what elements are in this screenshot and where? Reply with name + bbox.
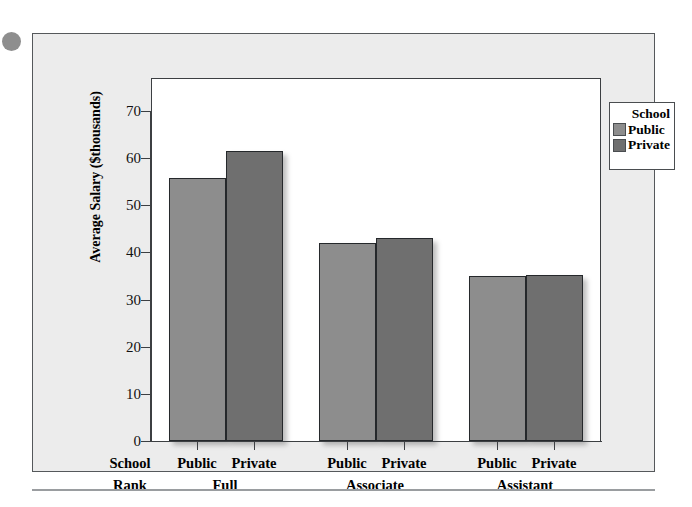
y-tick-mark-50 bbox=[141, 205, 150, 206]
legend: School Public Private bbox=[609, 102, 675, 170]
x-axis-line bbox=[150, 441, 602, 442]
y-tick-20: 20 bbox=[69, 347, 141, 348]
x-tick-full-private bbox=[254, 442, 255, 450]
x-tick-full-public bbox=[197, 442, 198, 450]
legend-item-public[interactable]: Public bbox=[613, 123, 671, 138]
x-label-group-associate: Associate bbox=[346, 477, 404, 494]
y-tick-0: 0 bbox=[69, 441, 141, 442]
bar-associate-public[interactable] bbox=[319, 243, 376, 441]
y-axis-title: Average Salary ($thousands) bbox=[88, 67, 104, 287]
x-label-group-assistant: Assistant bbox=[497, 477, 553, 494]
legend-swatch-private-icon bbox=[613, 139, 626, 152]
bottom-divider bbox=[32, 489, 655, 491]
legend-label-public: Public bbox=[628, 123, 665, 138]
x-tick-associate-private bbox=[404, 442, 405, 450]
y-tick-mark-70 bbox=[141, 111, 150, 112]
y-tick-mark-10 bbox=[141, 394, 150, 395]
x-label-group-full: Full bbox=[213, 477, 238, 494]
x-axis-header-school: School bbox=[88, 455, 172, 472]
x-label-full-private: Private bbox=[231, 455, 276, 472]
x-label-assistant-public: Public bbox=[477, 455, 516, 472]
x-tick-assistant-public bbox=[497, 442, 498, 450]
y-tick-label-0: 0 bbox=[83, 434, 141, 449]
bar-full-private[interactable] bbox=[226, 151, 283, 441]
x-label-assistant-private: Private bbox=[531, 455, 576, 472]
legend-title: School bbox=[613, 106, 671, 122]
y-tick-70: 70 bbox=[69, 111, 141, 112]
y-tick-label-30: 30 bbox=[83, 292, 141, 307]
bar-assistant-private[interactable] bbox=[526, 275, 583, 441]
y-tick-mark-30 bbox=[141, 300, 150, 301]
legend-label-private: Private bbox=[628, 138, 670, 153]
y-tick-mark-20 bbox=[141, 347, 150, 348]
y-tick-60: 60 bbox=[69, 158, 141, 159]
legend-item-private[interactable]: Private bbox=[613, 138, 671, 153]
y-tick-30: 30 bbox=[69, 300, 141, 301]
x-tick-assistant-private bbox=[554, 442, 555, 450]
x-tick-associate-public bbox=[347, 442, 348, 450]
y-tick-mark-0 bbox=[141, 441, 150, 442]
bar-associate-private[interactable] bbox=[376, 238, 433, 441]
plot-area bbox=[151, 111, 601, 441]
y-tick-mark-60 bbox=[141, 158, 150, 159]
legend-swatch-public-icon bbox=[613, 123, 626, 136]
x-label-full-public: Public bbox=[177, 455, 216, 472]
figure-frame: 70 60 50 40 30 20 10 0 Average Salary ($… bbox=[32, 33, 655, 472]
y-tick-label-20: 20 bbox=[83, 339, 141, 354]
y-tick-10: 10 bbox=[69, 394, 141, 395]
bullet-dot-icon bbox=[2, 32, 21, 51]
bar-full-public[interactable] bbox=[169, 178, 226, 441]
y-tick-mark-40 bbox=[141, 252, 150, 253]
x-axis-header-rank: Rank bbox=[88, 477, 172, 494]
bar-assistant-public[interactable] bbox=[469, 276, 526, 441]
y-tick-40: 40 bbox=[69, 252, 141, 253]
x-label-associate-private: Private bbox=[381, 455, 426, 472]
x-label-associate-public: Public bbox=[327, 455, 366, 472]
y-tick-50: 50 bbox=[69, 205, 141, 206]
y-tick-label-10: 10 bbox=[83, 386, 141, 401]
